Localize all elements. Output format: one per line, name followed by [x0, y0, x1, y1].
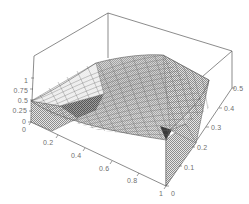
x-tick-02: [56, 135, 58, 138]
x-tick-0: [29, 122, 31, 125]
plot-canvas: [0, 0, 249, 204]
surface-plot-figure: 1 0.75 0.5 0.25 0 0 0.2 0.4 0.6 0.8 1 0 …: [0, 0, 249, 204]
z-tick-label-05: 0.5: [0, 97, 28, 104]
x-tick-label-02: 0.2: [43, 139, 53, 146]
z-tick-label-1: 1: [0, 77, 28, 84]
x-tick-04: [83, 148, 85, 151]
y-tick-label-05: 0.5: [233, 85, 243, 92]
x-tick-06: [110, 161, 112, 164]
x-tick-08: [137, 173, 139, 176]
y-tick-label-02: 0.2: [197, 144, 207, 151]
x-tick-label-08: 0.8: [127, 177, 137, 184]
x-tick-1: [164, 186, 166, 189]
y-tick-label-0: 0: [171, 190, 175, 197]
surface-body: [31, 55, 209, 186]
x-tick-label-04: 0.4: [71, 152, 81, 159]
y-tick-label-03: 0.3: [211, 124, 221, 131]
z-tick-label-075: 0.75: [0, 87, 28, 94]
z-tick-label-0: 0: [0, 118, 26, 125]
x-tick-label-0: 0: [22, 126, 26, 133]
x-tick-label-06: 0.6: [99, 165, 109, 172]
z-tick-label-025: 0.25: [0, 107, 27, 114]
x-tick-label-1: 1: [159, 190, 163, 197]
y-tick-label-04: 0.4: [224, 105, 234, 112]
y-tick-label-01: 0.1: [184, 164, 194, 171]
